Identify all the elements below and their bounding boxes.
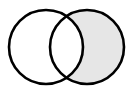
venn-diagram [0, 0, 133, 94]
